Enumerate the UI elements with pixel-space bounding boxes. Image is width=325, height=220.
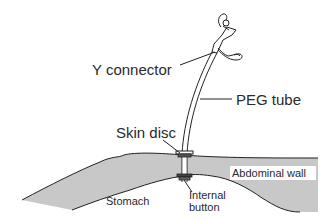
skin-disc-leader [163, 140, 180, 153]
peg-tube-diagram: Abdominal wall Y connector PEG tube [0, 0, 325, 220]
y-connector-leader [180, 52, 215, 65]
stomach-label: Stomach [106, 195, 149, 207]
abdominal-wall-label-group: Abdominal wall [230, 166, 316, 180]
y-connector-label: Y connector [92, 61, 172, 78]
abdominal-wall-label: Abdominal wall [232, 167, 306, 179]
abdominal-wall-tissue [22, 153, 318, 212]
internal-button-label-line1: Internal [189, 189, 226, 201]
skin-disc-label: Skin disc [116, 124, 177, 141]
y-connector [212, 14, 242, 60]
peg-tube-label: PEG tube [236, 91, 301, 108]
internal-button-label-line2: button [189, 201, 220, 213]
internal-button [177, 174, 192, 180]
